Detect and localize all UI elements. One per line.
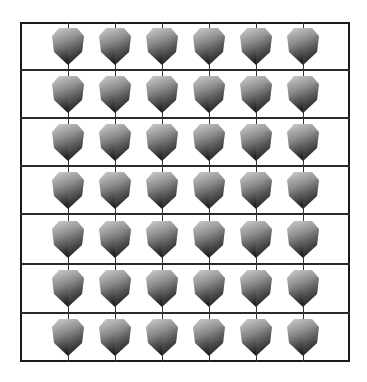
shaded-cube-icon: [286, 268, 320, 308]
shaded-cube-icon: [192, 170, 226, 210]
cube-connector: [115, 257, 116, 264]
shaded-cube-icon: [239, 26, 273, 66]
shaded-cube-icon: [51, 122, 85, 162]
shaded-cube-icon: [286, 122, 320, 162]
shaded-cube-icon: [192, 317, 226, 357]
cube-connector: [162, 355, 163, 362]
row-divider: [20, 213, 350, 215]
shaded-cube-icon: [51, 170, 85, 210]
shaded-cube-icon: [51, 268, 85, 308]
cube-connector: [115, 355, 116, 362]
shaded-cube-icon: [98, 122, 132, 162]
shaded-cube-icon: [239, 317, 273, 357]
shaded-cube-icon: [145, 26, 179, 66]
row-divider: [20, 312, 350, 314]
shaded-cube-icon: [98, 170, 132, 210]
shaded-cube-icon: [51, 317, 85, 357]
shaded-cube-icon: [239, 122, 273, 162]
row-divider: [20, 117, 350, 119]
cube-connector: [209, 306, 210, 313]
cube-connector: [256, 257, 257, 264]
shaded-cube-icon: [145, 170, 179, 210]
cube-connector: [68, 257, 69, 264]
shaded-cube-icon: [145, 122, 179, 162]
shaded-cube-icon: [145, 268, 179, 308]
shaded-cube-icon: [192, 122, 226, 162]
row-divider: [20, 69, 350, 71]
cube-connector: [115, 306, 116, 313]
shaded-cube-icon: [145, 74, 179, 114]
shaded-cube-icon: [51, 26, 85, 66]
shaded-cube-icon: [98, 26, 132, 66]
cube-connector: [209, 257, 210, 264]
cube-connector: [68, 355, 69, 362]
shaded-cube-icon: [192, 74, 226, 114]
cube-connector: [162, 306, 163, 313]
cube-connector: [303, 257, 304, 264]
cube-connector: [68, 306, 69, 313]
row-divider: [20, 165, 350, 167]
cube-connector: [303, 306, 304, 313]
shaded-cube-icon: [98, 317, 132, 357]
shaded-cube-icon: [51, 219, 85, 259]
shaded-cube-icon: [192, 268, 226, 308]
cube-connector: [209, 355, 210, 362]
shaded-cube-icon: [145, 219, 179, 259]
shaded-cube-icon: [286, 74, 320, 114]
shaded-cube-icon: [239, 74, 273, 114]
cube-connector: [256, 306, 257, 313]
shaded-cube-icon: [239, 268, 273, 308]
shaded-cube-icon: [239, 219, 273, 259]
shaded-cube-icon: [286, 219, 320, 259]
shaded-cube-icon: [145, 317, 179, 357]
cube-connector: [256, 355, 257, 362]
shaded-cube-icon: [286, 170, 320, 210]
row-divider: [20, 263, 350, 265]
shaded-cube-icon: [192, 26, 226, 66]
shaded-cube-icon: [286, 26, 320, 66]
shaded-cube-icon: [286, 317, 320, 357]
shaded-cube-icon: [192, 219, 226, 259]
shaded-cube-icon: [98, 268, 132, 308]
cube-connector: [162, 257, 163, 264]
shaded-cube-icon: [239, 170, 273, 210]
shaded-cube-icon: [51, 74, 85, 114]
shaded-cube-icon: [98, 74, 132, 114]
shaded-cube-icon: [98, 219, 132, 259]
cube-connector: [303, 355, 304, 362]
